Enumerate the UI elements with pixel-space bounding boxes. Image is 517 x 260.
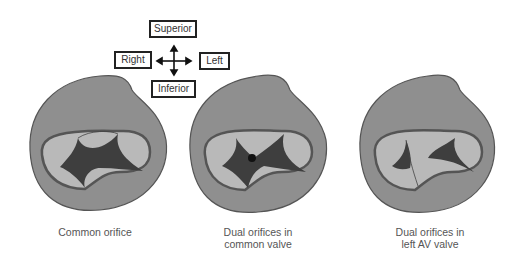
caption-common-orifice: Common orifice (35, 226, 155, 238)
caption-line-2: left AV valve (370, 238, 490, 250)
orientation-inferior-label: Inferior (151, 80, 196, 98)
caption-line-1: Dual orifices in (198, 226, 318, 238)
center-dot (248, 154, 256, 162)
orientation-cross-icon (157, 46, 191, 75)
caption-dual-common-valve: Dual orifices in common valve (198, 226, 318, 250)
orientation-right-label: Right (114, 51, 152, 69)
orientation-superior-label: Superior (149, 20, 197, 38)
valve-dual-orifices-left-av (360, 75, 495, 212)
valve-common-orifice (30, 76, 167, 211)
caption-dual-left-av-valve: Dual orifices in left AV valve (370, 226, 490, 250)
caption-line-1: Dual orifices in (370, 226, 490, 238)
valve-dual-orifices-common (190, 75, 327, 212)
orientation-left-label: Left (199, 52, 230, 70)
caption-line-1: Common orifice (35, 226, 155, 238)
valve-diagram (0, 0, 517, 260)
caption-line-2: common valve (198, 238, 318, 250)
